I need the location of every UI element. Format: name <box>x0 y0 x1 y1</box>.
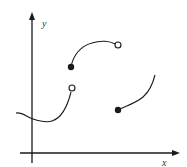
curve-piece-1 <box>16 85 75 122</box>
x-axis <box>20 150 180 156</box>
y-axis-label: y <box>41 18 47 29</box>
closed-endpoint-icon <box>68 64 74 70</box>
graph-svg: y x <box>0 0 187 167</box>
curve-piece-3 <box>115 75 155 113</box>
curve-piece-2 <box>68 41 121 70</box>
x-axis-arrow-icon <box>172 150 180 156</box>
closed-endpoint-icon <box>115 107 121 113</box>
y-axis <box>29 12 35 163</box>
open-endpoint-icon <box>115 42 121 48</box>
y-axis-arrow-icon <box>29 12 35 20</box>
x-axis-label: x <box>161 157 167 167</box>
open-endpoint-icon <box>69 85 75 91</box>
piecewise-graph: y x <box>0 0 187 167</box>
